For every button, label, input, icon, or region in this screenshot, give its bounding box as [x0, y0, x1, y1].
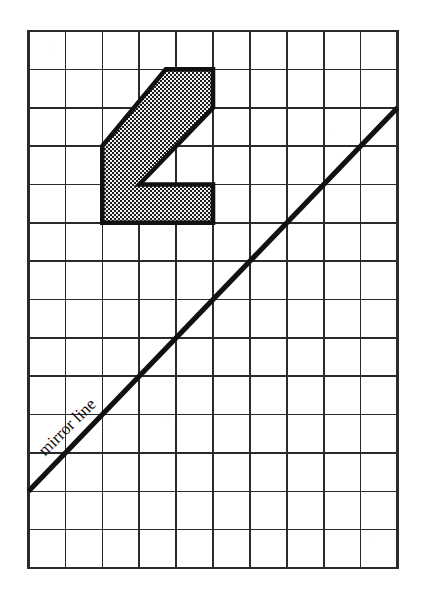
- figure-root: mirror line: [0, 0, 423, 596]
- mirror-line-figure: mirror line: [0, 0, 423, 596]
